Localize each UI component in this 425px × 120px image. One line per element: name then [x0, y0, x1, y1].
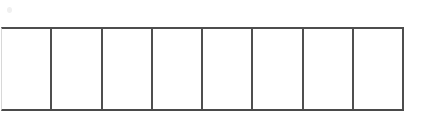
grid-cell[interactable]	[203, 29, 253, 109]
grid-cell-value	[253, 29, 301, 109]
scanned-page	[0, 0, 425, 120]
empty-answer-boxes	[1, 27, 404, 111]
grid-cell[interactable]	[52, 29, 102, 109]
grid-cell-value	[52, 29, 100, 109]
grid-cell[interactable]	[153, 29, 203, 109]
grid-cell[interactable]	[2, 29, 52, 109]
grid-cell-value	[2, 29, 50, 109]
grid-cell-value	[354, 29, 402, 109]
grid-cell-value	[304, 29, 352, 109]
scan-speck-top-left-icon	[7, 7, 12, 13]
grid-cell[interactable]	[103, 29, 153, 109]
grid-cell[interactable]	[354, 29, 402, 109]
grid-cell-value	[203, 29, 251, 109]
grid-cell-value	[153, 29, 201, 109]
grid-cell[interactable]	[253, 29, 303, 109]
grid-cell-value	[103, 29, 151, 109]
grid-cell[interactable]	[304, 29, 354, 109]
